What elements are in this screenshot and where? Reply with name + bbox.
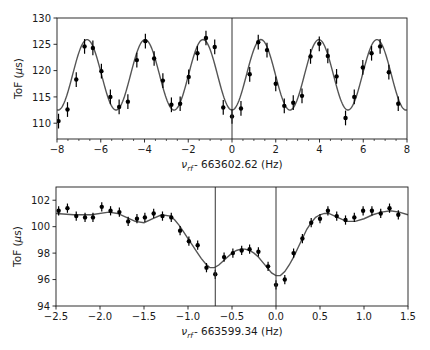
data-point — [247, 247, 251, 251]
x-tick-label: −4 — [137, 144, 152, 155]
data-point — [239, 248, 243, 252]
data-point — [282, 104, 286, 108]
data-point — [343, 116, 347, 120]
figure: −8−6−4−202468110115120125130νrf- 663602.… — [0, 0, 430, 350]
x-axis-label: νrf- 663599.34 (Hz) — [181, 325, 282, 340]
data-points — [56, 202, 400, 289]
x-axis: −2.5−2.0−1.5−1.0−0.50.00.51.01.5 — [44, 306, 416, 322]
data-point — [291, 251, 295, 255]
data-point — [178, 102, 182, 106]
x-tick-label: 0.5 — [312, 311, 328, 322]
data-point — [396, 102, 400, 106]
data-point — [300, 236, 304, 240]
data-point — [74, 214, 78, 218]
data-point — [308, 54, 312, 58]
data-point — [274, 82, 278, 86]
x-axis: −8−6−4−202468 — [50, 139, 411, 155]
x-tick-label: 6 — [360, 144, 366, 155]
data-point — [326, 209, 330, 213]
data-point — [283, 277, 287, 281]
x-axis-label: νrf- 663602.62 (Hz) — [181, 158, 282, 173]
data-point — [370, 209, 374, 213]
data-point — [256, 40, 260, 44]
data-point — [326, 54, 330, 58]
data-point — [221, 105, 225, 109]
data-point — [379, 211, 383, 215]
y-tick-label: 100 — [31, 221, 50, 232]
data-point — [161, 78, 165, 82]
data-point — [352, 95, 356, 99]
data-point — [378, 44, 382, 48]
x-tick-label: 8 — [404, 144, 410, 155]
y-tick-label: 102 — [31, 195, 50, 206]
x-tick-label: 1.5 — [400, 311, 416, 322]
data-point — [265, 48, 269, 52]
data-point — [318, 217, 322, 221]
y-tick-label: 120 — [32, 65, 51, 76]
data-point — [91, 215, 95, 219]
x-tick-label: 4 — [316, 144, 322, 155]
data-point — [387, 206, 391, 210]
data-point — [256, 250, 260, 254]
data-point — [91, 46, 95, 50]
axes-frame — [56, 187, 408, 306]
data-point — [99, 69, 103, 73]
data-point — [135, 217, 139, 221]
data-point — [186, 75, 190, 79]
data-point — [248, 72, 252, 76]
data-point — [300, 94, 304, 98]
fit-curve — [56, 211, 408, 276]
y-axis: 110115120125130 — [32, 13, 57, 129]
data-point — [317, 42, 321, 46]
x-tick-label: −1.5 — [132, 311, 156, 322]
data-point — [135, 58, 139, 62]
y-tick-label: 96 — [37, 274, 50, 285]
data-point — [334, 74, 338, 78]
data-point — [204, 36, 208, 40]
data-point — [169, 103, 173, 107]
data-point — [396, 213, 400, 217]
y-tick-label: 94 — [37, 301, 50, 312]
data-point — [369, 51, 373, 55]
data-point — [82, 44, 86, 48]
y-axis-label: ToF (μs) — [12, 58, 24, 100]
data-point — [117, 105, 121, 109]
data-point — [56, 209, 60, 213]
data-point — [352, 215, 356, 219]
data-point — [100, 205, 104, 209]
data-point — [222, 255, 226, 259]
x-tick-label: −2.5 — [44, 311, 68, 322]
data-point — [143, 215, 147, 219]
bottom-panel-chart: −2.5−2.0−1.5−1.0−0.50.00.51.01.594969810… — [11, 187, 416, 340]
data-point — [335, 214, 339, 218]
data-point — [178, 228, 182, 232]
data-point — [361, 209, 365, 213]
x-tick-label: −2.0 — [88, 311, 112, 322]
data-point — [108, 209, 112, 213]
data-point — [74, 77, 78, 81]
data-point — [387, 70, 391, 74]
y-tick-label: 125 — [32, 39, 51, 50]
y-tick-label: 110 — [32, 118, 51, 129]
data-point — [195, 243, 199, 247]
data-point — [361, 65, 365, 69]
x-tick-label: −1.0 — [176, 311, 200, 322]
x-tick-label: 0 — [229, 144, 235, 155]
data-point — [65, 206, 69, 210]
data-point — [83, 215, 87, 219]
plot-area — [56, 202, 408, 289]
data-point — [65, 107, 69, 111]
data-point — [152, 56, 156, 60]
data-point — [239, 106, 243, 110]
x-tick-label: −2 — [181, 144, 196, 155]
y-tick-label: 115 — [32, 92, 51, 103]
x-tick-label: −8 — [50, 144, 65, 155]
y-tick-label: 130 — [32, 13, 51, 24]
data-point — [343, 218, 347, 222]
data-point — [291, 101, 295, 105]
data-point — [187, 239, 191, 243]
data-point — [117, 210, 121, 214]
x-tick-label: −6 — [93, 144, 108, 155]
data-point — [231, 251, 235, 255]
data-point — [195, 51, 199, 55]
